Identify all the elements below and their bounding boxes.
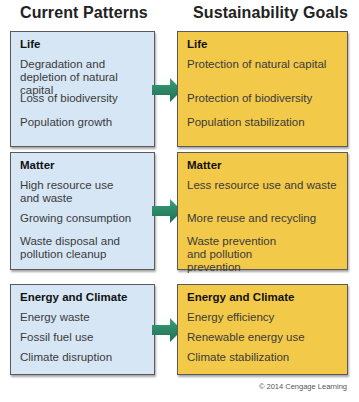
current-matter-box: Matter High resource use and waste Growi… <box>10 152 155 270</box>
list-item: Less resource use and waste <box>187 179 337 192</box>
sustainability-goals-heading: Sustainability Goals <box>193 4 348 22</box>
goal-life-box: Life Protection of natural capital Prote… <box>177 31 348 147</box>
list-item: Energy efficiency <box>187 311 274 324</box>
list-item: Renewable energy use <box>187 331 305 344</box>
list-item: Climate disruption <box>20 351 112 364</box>
current-energy-climate-box: Energy and Climate Energy waste Fossil f… <box>10 284 155 375</box>
category-label: Life <box>187 38 338 50</box>
goal-matter-box: Matter Less resource use and waste More … <box>177 152 348 270</box>
current-life-box: Life Degradation and depletion of natura… <box>10 31 155 147</box>
list-item: Growing consumption <box>20 212 131 225</box>
copyright-notice: © 2014 Cengage Learning <box>259 382 347 391</box>
category-label: Energy and Climate <box>187 291 338 303</box>
list-item: Population stabilization <box>187 116 305 129</box>
list-item: High resource use and waste <box>20 179 120 205</box>
list-item: Waste prevention and pollution preventio… <box>187 235 297 274</box>
list-item: Population growth <box>20 116 112 129</box>
category-label: Matter <box>20 159 145 171</box>
goal-energy-climate-box: Energy and Climate Energy efficiency Ren… <box>177 284 348 375</box>
list-item: Protection of biodiversity <box>187 92 312 105</box>
list-item: Energy waste <box>20 311 90 324</box>
category-label: Matter <box>187 159 338 171</box>
list-item: Protection of natural capital <box>187 58 326 71</box>
list-item: Climate stabilization <box>187 351 289 364</box>
list-item: More reuse and recycling <box>187 212 316 225</box>
list-item: Loss of biodiversity <box>20 92 118 105</box>
current-patterns-heading: Current Patterns <box>20 4 148 22</box>
category-label: Energy and Climate <box>20 291 145 303</box>
list-item: Waste disposal and pollution cleanup <box>20 235 130 261</box>
list-item: Fossil fuel use <box>20 331 94 344</box>
category-label: Life <box>20 38 145 50</box>
